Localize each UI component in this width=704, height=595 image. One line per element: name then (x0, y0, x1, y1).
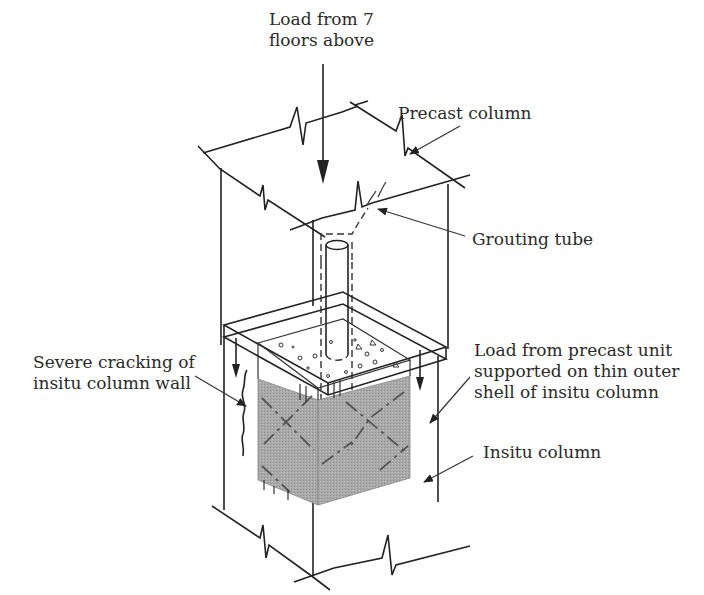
insitu-column-label: Insitu column (483, 442, 601, 463)
load-shell-label: Load from precast unit supported on thin… (474, 340, 679, 403)
precast-column-label: Precast column (398, 103, 531, 124)
bearing-layer (224, 292, 446, 395)
load-above-label: Load from 7 floors above (269, 9, 374, 51)
grouting-tube-label: Grouting tube (472, 229, 593, 250)
column-connection-drawing (0, 0, 704, 595)
crack-line (242, 370, 247, 456)
cracking-label: Severe cracking of insitu column wall (33, 352, 195, 394)
load-above-arrow (317, 64, 329, 184)
diagram-canvas: Load from 7 floors above Precast column … (0, 0, 704, 595)
